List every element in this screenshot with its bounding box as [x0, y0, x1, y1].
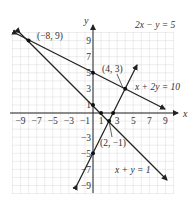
- y-tick-label: 9: [86, 36, 91, 46]
- point-label-2-neg1: (2, −1): [100, 138, 126, 149]
- y-tick-label: −5: [81, 149, 91, 159]
- point-marker: [91, 151, 95, 155]
- x-tick-label: −1: [80, 116, 90, 126]
- point-marker: [99, 111, 103, 115]
- x-tick-label: 3: [115, 116, 120, 126]
- point-marker: [91, 103, 95, 107]
- x-tick-label: −5: [48, 116, 58, 126]
- equation-label-x-plus-2y: x + 2y = 10: [134, 82, 180, 92]
- y-tick-label: −3: [81, 133, 91, 143]
- y-tick-label: 7: [86, 52, 91, 62]
- x-tick-label: 1: [99, 116, 104, 126]
- x-tick-label: −9: [15, 116, 25, 126]
- x-axis-label: x: [182, 108, 188, 119]
- x-tick-label: −3: [64, 116, 74, 126]
- x-tick-label: 9: [163, 116, 168, 126]
- y-tick-label: 3: [86, 84, 91, 94]
- x-tick-label: 5: [131, 116, 136, 126]
- x-tick-label: −7: [32, 116, 42, 126]
- point-label-4-3: (4, 3): [102, 64, 123, 75]
- point-label-neg8-9: (−8, 9): [37, 31, 63, 42]
- point-marker: [27, 39, 31, 43]
- point-marker: [91, 71, 95, 75]
- equation-label-x-plus-y: x + y = 1: [114, 165, 151, 175]
- y-axis-label: y: [83, 15, 89, 26]
- x-tick-label: 7: [147, 116, 152, 126]
- coordinate-plane: x y −9−7−5−3−113579 97531−3−5−7−9 2x − y…: [0, 0, 193, 198]
- point-marker: [111, 111, 115, 115]
- point-marker: [123, 87, 127, 91]
- y-tick-label: −9: [81, 181, 91, 191]
- equation-label-2x-minus-y: 2x − y = 5: [135, 20, 176, 30]
- line-x-plus-2y-eq-10: [17, 34, 165, 109]
